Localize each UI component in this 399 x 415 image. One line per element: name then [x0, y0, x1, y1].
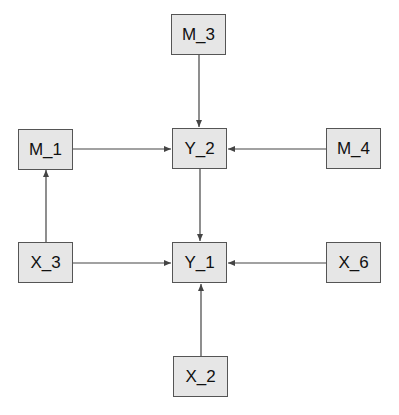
node-y2: Y_2: [172, 128, 227, 169]
node-m4: M_4: [326, 128, 381, 169]
node-x6: X_6: [326, 242, 381, 283]
node-m1: M_1: [18, 129, 73, 170]
node-x2: X_2: [173, 356, 228, 397]
node-m3: M_3: [171, 14, 226, 55]
edges-layer: [0, 0, 399, 415]
node-y1: Y_1: [172, 242, 227, 283]
node-x3: X_3: [18, 242, 73, 283]
